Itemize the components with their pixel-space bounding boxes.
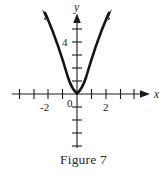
x-axis-label: x xyxy=(153,88,160,100)
x-tick-label-2: 2 xyxy=(103,101,109,113)
x-axis-arrow-icon xyxy=(140,90,150,98)
plot-area: x y -2 2 4 0 xyxy=(0,0,167,152)
y-axis-arrow-icon xyxy=(73,14,81,24)
origin-label: 0 xyxy=(67,97,73,109)
coordinate-plot: x y -2 2 4 0 xyxy=(0,0,167,152)
figure-panel: x y -2 2 4 0 Figure 7 xyxy=(0,0,167,176)
y-tick-label-4: 4 xyxy=(62,36,68,48)
x-tick-label-minus-2: -2 xyxy=(40,101,49,113)
y-axis-label: y xyxy=(73,1,80,14)
figure-caption: Figure 7 xyxy=(0,152,167,168)
